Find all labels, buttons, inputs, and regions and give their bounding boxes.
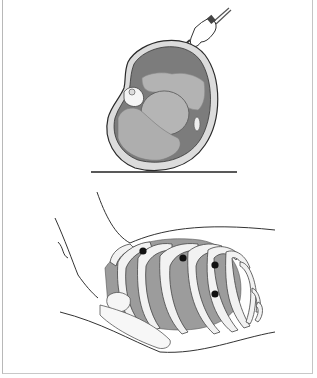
port-site-4 bbox=[211, 290, 218, 297]
panel-chest-cross-section bbox=[0, 0, 317, 190]
port-site-2 bbox=[179, 254, 186, 261]
panel-rib-cage bbox=[0, 185, 317, 378]
sternum bbox=[194, 117, 200, 131]
port-site-3 bbox=[211, 261, 218, 268]
port-site-1 bbox=[139, 247, 146, 254]
